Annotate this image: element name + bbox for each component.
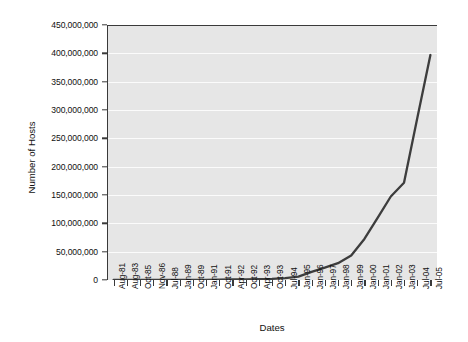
x-tick-label: Jul-04 [421, 267, 431, 289]
x-tick-label: Jul-94 [289, 267, 299, 289]
x-tick-mark [378, 280, 379, 286]
x-tick-label: Jan-99 [355, 265, 365, 289]
x-tick-label: Apr-92 [236, 265, 246, 289]
y-tick-label: 0 [93, 275, 98, 285]
x-tick-label: Jan-97 [328, 265, 338, 289]
y-tick-label: 200,000,000 [51, 162, 98, 172]
x-tick-label: Jan-91 [209, 265, 219, 289]
x-tick-label: Apr-93 [262, 265, 272, 289]
y-tick-mark [102, 53, 107, 54]
x-tick-mark [285, 280, 286, 286]
x-tick-label: Jan-03 [407, 265, 417, 289]
y-tick-mark [102, 223, 107, 224]
y-tick-mark [102, 251, 107, 252]
x-tick-mark [127, 280, 128, 286]
y-tick-mark [102, 138, 107, 139]
x-tick-mark [232, 280, 233, 286]
x-axis-title: Dates [107, 322, 437, 333]
x-tick-label: Nov-86 [157, 263, 167, 289]
x-tick-label: Oct-91 [223, 265, 233, 289]
x-tick-mark [219, 280, 220, 286]
y-tick-mark [102, 24, 107, 25]
x-tick-mark [325, 280, 326, 286]
chart-figure: 050,000,000100,000,000150,000,000200,000… [0, 0, 468, 342]
x-tick-label: Jan-02 [394, 265, 404, 289]
x-tick-mark [259, 280, 260, 286]
y-tick-label: 150,000,000 [51, 190, 98, 200]
x-tick-label: Oct-92 [249, 265, 259, 289]
x-tick-mark [391, 280, 392, 286]
y-axis: 050,000,000100,000,000150,000,000200,000… [0, 0, 107, 342]
x-tick-label: Jan-01 [381, 265, 391, 289]
x-tick-label: Jan-96 [315, 265, 325, 289]
x-tick-label: Oct-93 [275, 265, 285, 289]
y-tick-label: 350,000,000 [51, 77, 98, 87]
x-tick-mark [298, 280, 299, 286]
x-tick-mark [417, 280, 418, 286]
x-tick-label: Jul-88 [170, 267, 180, 289]
x-tick-mark [338, 280, 339, 286]
y-tick-label: 50,000,000 [56, 247, 98, 257]
x-tick-mark [166, 280, 167, 286]
x-tick-label: Oct-89 [196, 265, 206, 289]
x-tick-label: Aug-81 [117, 263, 127, 289]
x-tick-mark [430, 280, 431, 286]
x-tick-mark [272, 280, 273, 286]
y-tick-mark [102, 109, 107, 110]
x-tick-mark [114, 280, 115, 286]
y-tick-label: 250,000,000 [51, 133, 98, 143]
x-tick-label: Jan-89 [183, 265, 193, 289]
y-axis-title: Number of Hosts [26, 88, 37, 228]
x-tick-mark [140, 280, 141, 286]
x-tick-label: Jan-95 [302, 265, 312, 289]
y-tick-mark [102, 194, 107, 195]
x-tick-label: Jan-98 [341, 265, 351, 289]
y-tick-label: 100,000,000 [51, 218, 98, 228]
y-tick-label: 400,000,000 [51, 48, 98, 58]
x-tick-label: Jul-05 [434, 267, 444, 289]
x-tick-label: Oct-85 [143, 265, 153, 289]
x-tick-label: Jan-00 [368, 265, 378, 289]
x-tick-mark [153, 280, 154, 286]
x-tick-mark [312, 280, 313, 286]
y-tick-mark [102, 166, 107, 167]
x-tick-mark [246, 280, 247, 286]
line-series-hosts [114, 55, 431, 280]
line-series-layer [107, 25, 437, 280]
x-tick-mark [206, 280, 207, 286]
x-tick-mark [180, 280, 181, 286]
y-tick-mark [102, 81, 107, 82]
x-tick-mark [404, 280, 405, 286]
x-tick-mark [193, 280, 194, 286]
y-tick-label: 450,000,000 [51, 20, 98, 30]
x-tick-mark [351, 280, 352, 286]
x-tick-label: Aug-83 [130, 263, 140, 289]
x-tick-mark [364, 280, 365, 286]
y-tick-label: 300,000,000 [51, 105, 98, 115]
